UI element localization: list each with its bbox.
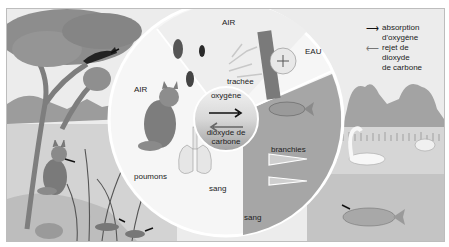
legend-item-co2: ⟵ rejet de dioxyde de carbone — [365, 43, 422, 73]
newt — [125, 230, 145, 238]
legend-label: absorption — [382, 23, 419, 33]
legend-label: d'oxygène — [382, 33, 419, 43]
arrow-left-gray-icon: ⟵ — [365, 43, 379, 53]
label-lungs: poumons — [134, 172, 167, 181]
illustration-frame: ⟶ absorption d'oxygène ⟵ rejet de dioxyd… — [6, 8, 445, 242]
legend-label: rejet de — [382, 43, 422, 53]
legend-item-oxygen: ⟶ absorption d'oxygène — [365, 23, 422, 43]
label-oxygen: oxygène — [202, 91, 250, 100]
label-air-mammal: AIR — [134, 85, 147, 94]
legend-label: dioxyde — [382, 53, 422, 63]
legend-label: de carbone — [382, 63, 422, 73]
label-air-insects: AIR — [222, 18, 235, 27]
label-blood-lungs: sang — [209, 184, 226, 193]
label-gills: branchies — [271, 145, 306, 154]
newt — [95, 223, 119, 231]
label-co2-line2: carbone — [200, 137, 252, 146]
label-blood-gills: sang — [244, 213, 261, 222]
label-water: EAU — [305, 47, 321, 56]
legend: ⟶ absorption d'oxygène ⟵ rejet de dioxyd… — [365, 23, 422, 73]
arrow-right-dark-icon: ⟶ — [365, 23, 379, 33]
toad — [35, 223, 63, 239]
label-co2-line1: dioxyde de — [200, 128, 252, 137]
label-trachea: trachée — [227, 77, 254, 86]
